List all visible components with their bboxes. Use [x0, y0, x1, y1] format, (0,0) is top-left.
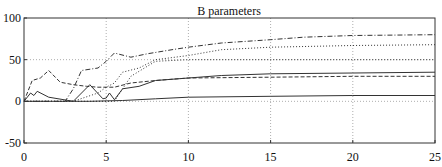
y-tick-label: 100	[3, 11, 21, 25]
x-tick-label: 10	[182, 150, 194, 164]
plot-frame	[24, 18, 435, 143]
grid	[24, 18, 435, 143]
x-tick-label: 5	[103, 150, 109, 164]
line-chart: B parameters 0510152025 -50050100	[0, 0, 442, 167]
x-tick-label: 15	[265, 150, 277, 164]
x-axis-ticks: 0510152025	[21, 140, 441, 164]
series-dash-dot	[24, 35, 435, 102]
x-tick-label: 0	[21, 150, 27, 164]
y-tick-label: 0	[15, 94, 21, 108]
x-tick-label: 25	[429, 150, 441, 164]
series-group	[24, 35, 435, 102]
y-tick-label: 50	[9, 53, 21, 67]
x-tick-label: 20	[347, 150, 359, 164]
y-axis-ticks: -50050100	[3, 11, 27, 150]
series-solid-2	[24, 96, 435, 102]
y-tick-label: -50	[5, 136, 21, 150]
chart-title: B parameters	[197, 4, 261, 18]
